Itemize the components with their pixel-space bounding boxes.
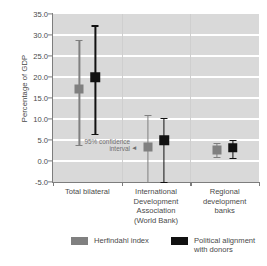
annotation-arrow-icon: ◄ <box>131 144 137 151</box>
data-point-marker <box>91 72 101 82</box>
error-bar-cap-upper <box>161 118 168 119</box>
data-point-marker <box>228 143 238 153</box>
error-bar-cap-upper <box>229 140 236 141</box>
error-bar <box>163 118 164 182</box>
chart-container: Percentage of GDP 35.030.025.020.015.010… <box>0 0 267 266</box>
series-political-alignment <box>0 0 267 266</box>
data-point-marker <box>159 135 169 145</box>
confidence-interval-annotation: 95% confidence interval <box>62 138 130 153</box>
error-bar-cap-upper <box>92 25 99 26</box>
error-bar-cap-lower <box>229 158 236 159</box>
error-bar-cap-lower <box>161 182 168 183</box>
error-bar-cap-lower <box>92 134 99 135</box>
